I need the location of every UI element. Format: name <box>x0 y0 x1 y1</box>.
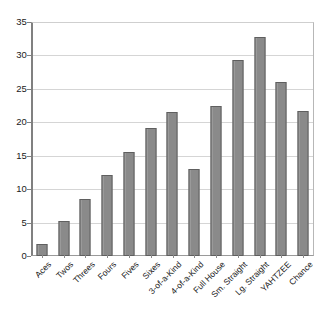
x-tick-mark <box>129 255 130 258</box>
bar-slot <box>183 22 205 256</box>
y-tick-label: 15 <box>3 151 27 161</box>
bar-slot <box>270 22 292 256</box>
y-tick-label: 10 <box>3 184 27 194</box>
y-tick-label: 5 <box>3 218 27 228</box>
bar-slot <box>118 22 140 256</box>
y-tick-label: 30 <box>3 50 27 60</box>
x-tick-mark <box>42 255 43 258</box>
bar-slot <box>96 22 118 256</box>
bar-slot <box>31 22 53 256</box>
bar[interactable] <box>102 175 113 256</box>
bar[interactable] <box>145 128 156 256</box>
x-tick-label: Aces <box>34 260 53 279</box>
x-tick-label: Threes <box>72 260 97 285</box>
bar-slot <box>249 22 271 256</box>
x-tick-mark <box>151 255 152 258</box>
y-tick-label: 35 <box>3 17 27 27</box>
x-tick-mark <box>260 255 261 258</box>
bar[interactable] <box>189 169 200 256</box>
bar[interactable] <box>58 221 69 256</box>
x-tick-mark <box>64 255 65 258</box>
bar[interactable] <box>298 111 309 256</box>
bar-slot <box>140 22 162 256</box>
bar-slot <box>227 22 249 256</box>
x-tick-mark <box>281 255 282 258</box>
x-tick-label: Fours <box>97 260 118 281</box>
x-tick-mark <box>85 255 86 258</box>
y-tick-mark <box>27 256 31 257</box>
y-tick-label: 0 <box>3 251 27 261</box>
x-tick-mark <box>194 255 195 258</box>
y-tick-label: 20 <box>3 117 27 127</box>
bar[interactable] <box>167 112 178 256</box>
bar[interactable] <box>123 152 134 256</box>
x-tick-mark <box>303 255 304 258</box>
x-tick-mark <box>216 255 217 258</box>
bar-slot <box>53 22 75 256</box>
bar[interactable] <box>211 106 222 256</box>
bar-chart: 05101520253035 AcesTwosThreesFoursFivesS… <box>0 0 326 309</box>
x-tick-label: Fives <box>120 260 140 280</box>
bar-slot <box>162 22 184 256</box>
bar[interactable] <box>276 82 287 256</box>
bar[interactable] <box>80 199 91 256</box>
y-tick-label: 25 <box>3 84 27 94</box>
x-tick-mark <box>107 255 108 258</box>
bars-layer <box>31 22 314 256</box>
bar-slot <box>292 22 314 256</box>
bar[interactable] <box>254 37 265 256</box>
bar[interactable] <box>232 60 243 256</box>
x-tick-mark <box>173 255 174 258</box>
x-tick-mark <box>238 255 239 258</box>
bar-slot <box>205 22 227 256</box>
x-axis: AcesTwosThreesFoursFivesSixes3-of-a-Kind… <box>31 258 314 309</box>
bar-slot <box>75 22 97 256</box>
